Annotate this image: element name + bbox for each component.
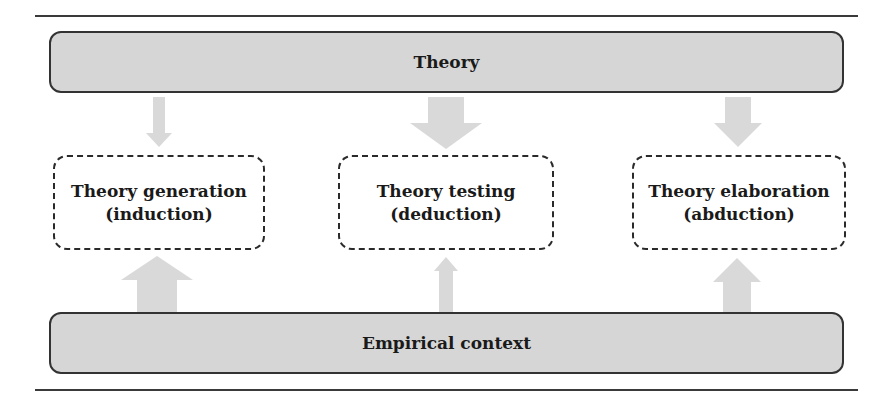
- node-subtitle: (induction): [105, 203, 213, 226]
- up-arrow-induction-icon: [121, 256, 193, 312]
- node-title: Theory elaboration: [648, 180, 829, 203]
- node-theory-elaboration: Theory elaboration (abduction): [632, 155, 846, 250]
- up-arrow-deduction-icon: [434, 257, 458, 312]
- down-arrow-deduction-icon: [410, 97, 482, 149]
- theory-band: Theory: [49, 31, 844, 93]
- node-theory-testing: Theory testing (deduction): [338, 155, 554, 250]
- empirical-context-label: Empirical context: [362, 333, 531, 353]
- node-subtitle: (abduction): [683, 203, 795, 226]
- bottom-rule: [35, 389, 858, 391]
- up-arrow-abduction-icon: [713, 258, 761, 312]
- node-subtitle: (deduction): [390, 203, 501, 226]
- theory-label: Theory: [414, 52, 480, 72]
- node-title: Theory generation: [71, 180, 247, 203]
- down-arrow-abduction-icon: [714, 97, 762, 147]
- node-theory-generation: Theory generation (induction): [53, 155, 265, 250]
- node-title: Theory testing: [377, 180, 516, 203]
- down-arrow-induction-icon: [146, 97, 172, 147]
- top-rule: [35, 15, 858, 17]
- empirical-context-band: Empirical context: [49, 312, 844, 374]
